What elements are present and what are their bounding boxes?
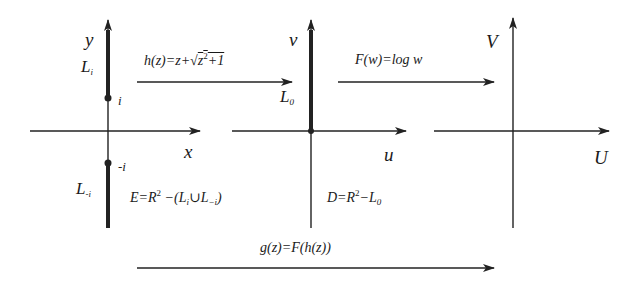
w-origin xyxy=(308,128,314,134)
g-map-label: g(z)=F(h(z)) xyxy=(260,241,331,255)
cut-label-Li-sub: i xyxy=(90,67,93,77)
V-axis-label: V xyxy=(486,32,498,51)
domain-E-pre: E=R xyxy=(130,190,157,205)
domain-D-label: D=R2−L0 xyxy=(327,189,381,207)
x-axis-label: x xyxy=(184,142,192,161)
domain-E-sub2: −i xyxy=(209,197,218,207)
point-minus-i xyxy=(105,160,112,167)
point-minus-i-label: -i xyxy=(118,160,126,173)
h-map-pre: h(z)=z+√ xyxy=(144,53,198,68)
W-plane xyxy=(434,18,609,228)
cut-label-L0-sub: 0 xyxy=(289,97,294,107)
domain-D-sub: 0 xyxy=(377,197,382,207)
h-map-radicand: z2+1 xyxy=(198,53,224,68)
domain-D-pre: D=R xyxy=(327,190,355,205)
domain-E-label: E=R2 −(Li∪L−i) xyxy=(130,189,222,207)
domain-E-mid: ∪L xyxy=(189,190,209,205)
y-axis-label: y xyxy=(85,30,93,49)
domain-E-post1: −(L xyxy=(161,190,186,205)
v-axis-label: v xyxy=(289,30,297,49)
u-axis-label: u xyxy=(384,145,394,164)
h-map-label: h(z)=z+√z2+1 xyxy=(144,52,224,68)
F-map-label: F(w)=log w xyxy=(355,53,422,67)
cut-label-L0: L0 xyxy=(280,88,294,107)
cut-label-L-minus-i-sub: -i xyxy=(85,189,91,199)
cut-label-Li: Li xyxy=(81,58,93,77)
domain-E-close: ) xyxy=(217,190,222,205)
point-i xyxy=(105,95,112,102)
h-map-radicand-post: +1 xyxy=(208,53,224,68)
cut-label-L-minus-i: L-i xyxy=(76,180,91,199)
point-i-label: i xyxy=(118,94,122,107)
U-axis-label: U xyxy=(594,148,608,167)
domain-D-post: −L xyxy=(360,190,377,205)
